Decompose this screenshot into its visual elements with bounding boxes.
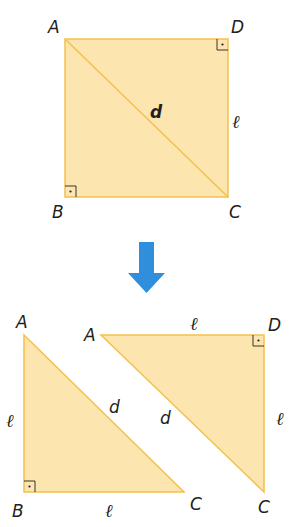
down-arrow-icon (128, 242, 165, 293)
leg-label-vertical-right: ℓ (276, 408, 284, 429)
vertex-label-a: A (47, 17, 60, 37)
square-abcd: A D B C d ℓ (47, 17, 244, 222)
vertex-label-a-left: A (15, 312, 28, 332)
vertex-label-b-left: B (12, 501, 24, 521)
vertex-label-a-right: A (83, 325, 96, 345)
leg-label-horizontal-left: ℓ (105, 500, 113, 521)
side-label-l: ℓ (232, 111, 240, 132)
vertex-label-c-right: C (258, 497, 270, 517)
hypotenuse-label-d-left: d (109, 397, 120, 417)
leg-label-top-right: ℓ (190, 313, 198, 334)
leg-label-vertical-left: ℓ (6, 410, 14, 431)
vertex-label-d: D (231, 17, 244, 37)
hypotenuse-label-d-right: d (160, 408, 171, 428)
vertex-label-c-left: C (190, 494, 202, 514)
diagonal-label-d: d (150, 102, 163, 122)
vertex-label-d-right: D (268, 315, 281, 335)
diagram-canvas: A D B C d ℓ A B C d ℓ ℓ A D C d ℓ ℓ (0, 0, 294, 527)
vertex-label-b: B (52, 202, 64, 222)
vertex-label-c: C (229, 202, 241, 222)
